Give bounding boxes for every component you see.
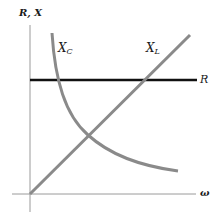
diagram-canvas (0, 0, 224, 222)
x-axis-label: ω (200, 188, 210, 198)
xc-label-sub: C (67, 47, 73, 56)
y-axis-label: R, X (19, 8, 42, 18)
xl-label-sub: L (155, 47, 160, 56)
xc-label-main: X (58, 41, 67, 55)
inductive-reactance-label: XL (146, 42, 160, 56)
reactance-frequency-diagram: R, X XC XL R ω (0, 0, 224, 222)
xl-label-main: X (146, 41, 155, 55)
capacitive-reactance-label: XC (58, 42, 73, 56)
resistance-label: R (200, 74, 208, 85)
